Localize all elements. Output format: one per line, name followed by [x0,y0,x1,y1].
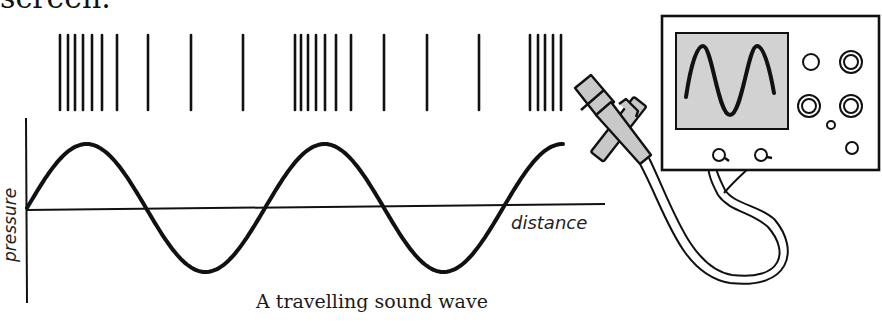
sound-wave-diagram: pressure distance [0,0,882,326]
microphone-cable [640,152,788,284]
oscilloscope [662,16,879,170]
diagram-caption: A travelling sound wave [256,290,488,312]
microphone-icon [575,75,651,164]
y-axis-label: pressure [0,188,20,263]
x-axis [26,204,605,210]
x-axis-label: distance [511,212,587,233]
compression-lines [60,35,561,110]
